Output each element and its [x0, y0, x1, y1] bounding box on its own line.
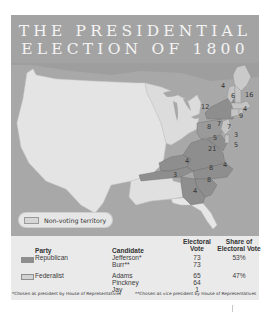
ev-new-york: 12	[201, 103, 209, 111]
ev-new-jersey: 7	[227, 123, 231, 131]
ev-tennessee: 3	[173, 171, 177, 179]
votes-pinckney: 64	[187, 279, 207, 286]
ev-massachusetts: 16	[245, 91, 253, 99]
share-federalist: 47%	[225, 272, 253, 279]
party-federalist: Federalist	[35, 272, 64, 279]
ev-connecticut: 9	[239, 112, 243, 120]
header-share: Share of Electoral Vote	[217, 238, 261, 252]
footnote-vice-president: **Chosen as vice president by House of R…	[135, 291, 256, 296]
page-mark	[232, 305, 233, 312]
ev-virginia: 21	[208, 145, 216, 153]
candidate-adams: Adams	[112, 272, 133, 279]
header-share-line2: Electoral Vote	[217, 245, 261, 252]
candidate-jefferson: Jefferson*	[112, 254, 142, 261]
ev-vermont: 4	[221, 82, 225, 90]
ev-pennsylvania-east: 7	[217, 120, 221, 128]
title-line-1: THE PRESIDENTIAL	[11, 22, 259, 40]
party-republican: Republican	[35, 254, 68, 261]
non-voting-swatch	[24, 217, 39, 224]
votes-adams: 65	[187, 272, 207, 279]
ev-rhode-island: 4	[243, 105, 247, 113]
ev-pennsylvania-west: 8	[207, 123, 211, 131]
ev-kentucky: 4	[185, 157, 189, 165]
votes-burr: 73	[187, 261, 207, 268]
state-delaware	[225, 135, 229, 143]
ev-delaware: 3	[234, 131, 238, 139]
header-party: Party	[35, 247, 52, 254]
us-map: 4 6 16 12 4 9 8 7 7 3 5 5 21 4 3 8 4 8 4	[11, 63, 259, 236]
republican-swatch	[21, 257, 34, 263]
ev-north-carolina-rep: 8	[209, 164, 213, 172]
federalist-swatch	[21, 274, 34, 280]
title-line-2: ELECTION OF 1800	[11, 40, 259, 58]
ev-maryland-west: 5	[213, 134, 217, 142]
share-republican: 53%	[225, 254, 253, 261]
ev-south-carolina: 8	[207, 176, 211, 184]
ev-georgia: 4	[193, 187, 197, 195]
ev-new-hampshire: 6	[231, 92, 235, 100]
header-candidate: Candidate	[112, 247, 144, 254]
ev-maryland-east: 5	[234, 141, 238, 149]
us-map-svg: 4 6 16 12 4 9 8 7 7 3 5 5 21 4 3 8 4 8 4	[11, 63, 259, 236]
header-electoral-vote: Electoral Vote	[181, 238, 213, 252]
candidate-burr: Burr**	[112, 261, 130, 268]
map-title: THE PRESIDENTIAL ELECTION OF 1800	[11, 15, 259, 63]
header-electoral-vote-line2: Vote	[181, 245, 213, 252]
ev-north-carolina-fed: 4	[223, 161, 227, 169]
votes-jefferson: 73	[187, 254, 207, 261]
header-share-line1: Share of	[217, 238, 261, 245]
footnote-president: *Chosen as president by House of Represe…	[12, 291, 121, 296]
header-electoral-vote-line1: Electoral	[181, 238, 213, 245]
map-legend: Non-voting territory	[19, 213, 112, 227]
legend-label: Non-voting territory	[44, 217, 106, 224]
candidate-pinckney: Pinckney	[112, 279, 139, 286]
